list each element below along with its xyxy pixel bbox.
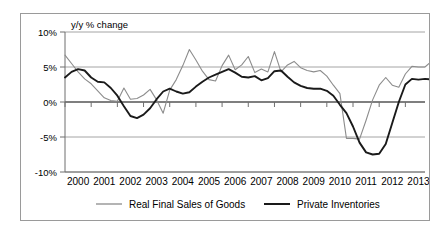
y-axis-label: 5% [43,62,57,73]
x-axis-label: 2010 [329,176,352,187]
x-axis-label: 2001 [93,176,116,187]
x-axis-label: 2008 [276,176,299,187]
legend-label: Real Final Sales of Goods [129,199,245,210]
chart-figure: 10%5%0%-5%-10% 2000200120022003200420052… [20,13,430,221]
x-axis-label: 2000 [67,176,90,187]
y-axis-label: 10% [38,27,58,38]
x-axis-label: 2009 [303,176,326,187]
x-axis-label: 2011 [355,176,377,187]
x-axis-label: 2002 [119,176,142,187]
y-axis-label: -10% [35,167,58,178]
y-axis-note: y/y % change [71,19,128,30]
legend-label: Private Inventories [297,199,380,210]
x-axis-label: 2006 [224,176,247,187]
x-axis-label: 2012 [381,176,404,187]
x-axis-labels: 2000200120022003200420052006200720082009… [67,176,429,187]
x-axis-label: 2007 [250,176,273,187]
line-chart: 10%5%0%-5%-10% 2000200120022003200420052… [21,14,429,220]
chart-legend: Real Final Sales of GoodsPrivate Invento… [96,199,380,210]
series-line-private-inventories [65,69,429,154]
x-axis-label: 2003 [146,176,169,187]
y-axis-label: -5% [40,132,57,143]
x-axis-label: 2013 [407,176,429,187]
x-axis-label: 2005 [198,176,221,187]
x-axis-label: 2004 [172,176,195,187]
y-axis-label: 0% [43,97,57,108]
gridlines [60,32,425,172]
series-line-real-final-sales-of-goods [65,50,429,140]
y-axis-labels: 10%5%0%-5%-10% [35,27,58,178]
